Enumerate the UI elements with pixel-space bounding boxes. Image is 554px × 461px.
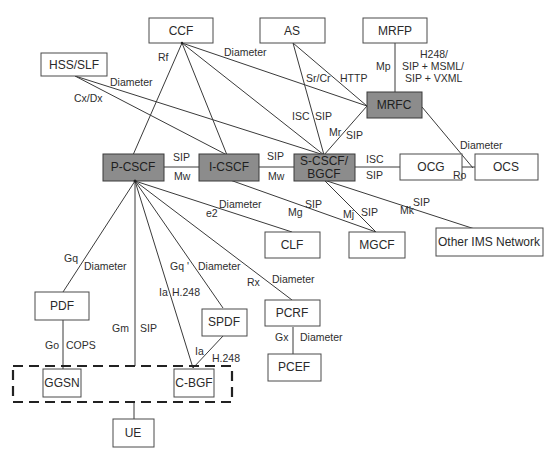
node-spdf[interactable]: SPDF <box>202 309 247 336</box>
node-ccf-label: CCF <box>169 24 194 38</box>
node-s-cscf-label-line1: S-CSCF/ <box>300 154 349 168</box>
label-sip-mk: SIP <box>413 196 430 208</box>
label-cx-dx: Cx/Dx <box>74 92 103 104</box>
node-mrfc[interactable]: MRFC <box>367 92 422 118</box>
label-rx-diameter: Diameter <box>272 273 315 285</box>
node-ue-label: UE <box>125 426 142 440</box>
node-ue[interactable]: UE <box>113 419 154 447</box>
node-ggsn[interactable]: GGSN <box>43 369 81 397</box>
label-sr-cr: Sr/Cr <box>306 72 331 84</box>
label-rx: Rx <box>247 276 261 288</box>
label-mw-p-i: Mw <box>174 170 191 182</box>
node-i-cscf[interactable]: I-CSCF <box>199 154 259 181</box>
node-other-ims-network[interactable]: Other IMS Network <box>436 228 543 256</box>
node-hss-slf-label: HSS/SLF <box>49 58 99 72</box>
ims-architecture-diagram: CCF AS MRFP HSS/SLF MRFC P-CSCF I-CSCF S… <box>0 0 554 461</box>
node-pcef[interactable]: PCEF <box>268 354 321 381</box>
node-spdf-label: SPDF <box>208 315 240 329</box>
label-mrfp-proto-1: H248/ <box>420 48 448 60</box>
junction-dot-pcscf <box>134 180 137 183</box>
label-sip-gm: SIP <box>140 322 157 334</box>
node-mrfp[interactable]: MRFP <box>363 18 427 43</box>
node-i-cscf-label: I-CSCF <box>209 160 249 174</box>
node-mgcf-label: MGCF <box>359 238 394 252</box>
label-mj: Mj <box>343 208 354 220</box>
node-mrfc-label: MRFC <box>377 98 412 112</box>
label-gx: Gx <box>275 331 289 343</box>
label-sip-as: SIP <box>315 110 332 122</box>
link-pcscf-cbgf <box>135 181 193 368</box>
label-gm: Gm <box>112 322 129 334</box>
label-gq-diameter: Diameter <box>84 260 127 272</box>
label-mrfp-proto-2: SIP + MSML/ <box>402 60 464 72</box>
label-sip-ocg: SIP <box>366 169 383 181</box>
node-ocg-label: OCG <box>417 160 444 174</box>
label-sip-p-i: SIP <box>173 151 190 163</box>
node-ocs-label: OCS <box>493 160 519 174</box>
label-cops: COPS <box>66 339 96 351</box>
label-sip-i-s: SIP <box>267 150 284 162</box>
label-go: Go <box>45 339 59 351</box>
label-e2: e2 <box>206 207 218 219</box>
label-mrfc-ocs-diameter: Diameter <box>460 139 503 151</box>
label-isc-ocg: ISC <box>366 153 384 165</box>
node-hss-slf[interactable]: HSS/SLF <box>41 53 107 76</box>
node-c-bgf[interactable]: C-BGF <box>174 369 214 397</box>
label-ia-top: Ia <box>159 286 168 298</box>
node-mgcf[interactable]: MGCF <box>349 232 405 258</box>
label-h248-top: H.248 <box>172 286 200 298</box>
node-as-label: AS <box>284 24 300 38</box>
label-ro: Ro <box>453 169 467 181</box>
node-pcrf-label: PCRF <box>276 306 309 320</box>
node-s-cscf-label-line2: BGCF <box>307 167 340 181</box>
node-pdf[interactable]: PDF <box>35 292 89 320</box>
label-sip-mg: SIP <box>305 198 322 210</box>
node-pcrf[interactable]: PCRF <box>265 300 320 326</box>
label-gq-prime-diameter: Diameter <box>198 260 241 272</box>
label-mrfp-proto-3: SIP + VXML <box>405 72 462 84</box>
label-sip-mj: SIP <box>361 206 378 218</box>
label-ia-bottom: Ia <box>195 345 204 357</box>
link-pcscf-pdf <box>63 181 135 292</box>
label-gx-diameter: Diameter <box>300 331 343 343</box>
label-sip-mr: SIP <box>346 129 363 141</box>
label-e2-diameter: Diameter <box>219 198 262 210</box>
node-p-cscf[interactable]: P-CSCF <box>103 154 164 181</box>
node-clf-label: CLF <box>281 238 304 252</box>
node-pdf-label: PDF <box>50 299 74 313</box>
label-isc-as: ISC <box>292 110 310 122</box>
node-clf[interactable]: CLF <box>265 232 320 258</box>
label-mp: Mp <box>376 60 391 72</box>
node-mrfp-label: MRFP <box>378 24 412 38</box>
node-s-cscf-bgcf[interactable]: S-CSCF/ BGCF <box>294 154 355 181</box>
link-ccf-icscf <box>182 43 227 155</box>
label-mg: Mg <box>288 206 303 218</box>
node-ccf[interactable]: CCF <box>149 18 213 43</box>
label-gq-prime: Gq ' <box>170 260 189 272</box>
junction-dot-ccf <box>181 42 183 44</box>
node-ocs[interactable]: OCS <box>475 154 538 180</box>
node-c-bgf-label: C-BGF <box>175 376 212 390</box>
node-as[interactable]: AS <box>260 18 325 43</box>
node-ggsn-label: GGSN <box>44 376 79 390</box>
node-other-ims-network-label: Other IMS Network <box>438 235 541 249</box>
link-as-scscf <box>293 43 324 155</box>
link-ccf-scscf <box>182 43 324 155</box>
label-mr: Mr <box>329 126 342 138</box>
label-ccf-mrfc-diameter: Diameter <box>224 46 267 58</box>
node-pcef-label: PCEF <box>278 360 310 374</box>
label-mw-i-s: Mw <box>268 170 285 182</box>
label-h248-bottom: H.248 <box>212 352 240 364</box>
label-rf: Rf <box>158 51 169 63</box>
node-p-cscf-label: P-CSCF <box>111 160 156 174</box>
label-gq: Gq <box>64 252 78 264</box>
label-hss-diameter: Diameter <box>110 76 153 88</box>
label-http: HTTP <box>340 72 367 84</box>
